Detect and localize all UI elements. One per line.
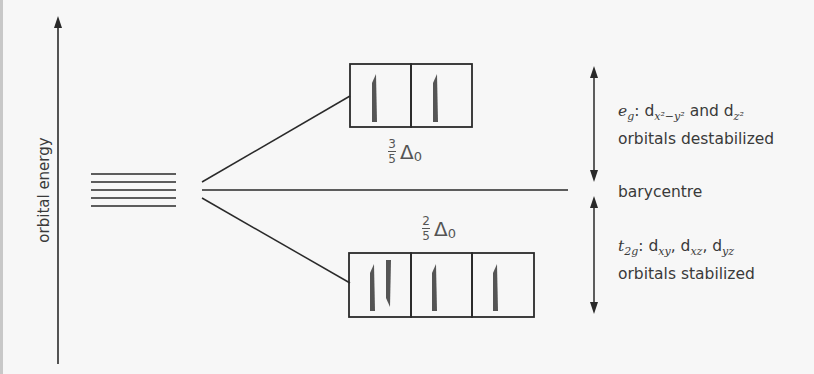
spin-up-arrow-icon — [493, 264, 498, 311]
orbital-d: d — [724, 102, 734, 120]
t2g-symbol-sub: 2g — [624, 245, 638, 258]
t2g-label: t2g: dxy, dxz, dyz orbitals stabilized — [618, 235, 755, 285]
t2g-description: orbitals stabilized — [618, 263, 755, 285]
eg-label: eg: dx²−y² and dz² orbitals destabilized — [618, 100, 774, 150]
spin-up-arrow-icon — [370, 264, 375, 311]
eg-description: orbitals destabilized — [618, 128, 774, 150]
t2g-orbital-boxes — [349, 253, 534, 317]
delta-subscript: 0 — [448, 226, 456, 241]
t2g-energy-arrow — [590, 196, 598, 314]
spin-up-arrow-icon — [372, 74, 377, 122]
arrow-down-icon — [590, 170, 598, 182]
orbital-subscript: z² — [734, 110, 744, 123]
eg-electrons — [372, 74, 438, 122]
t2g-electrons — [370, 260, 498, 311]
eg-split-line — [202, 96, 350, 182]
eg-energy-label: 3 5 Δ 0 — [388, 138, 422, 165]
spin-up-arrow-icon — [432, 264, 437, 311]
arrow-up-icon — [590, 66, 598, 78]
orbital-subscript: yz — [722, 245, 734, 258]
degenerate-levels — [91, 174, 176, 206]
arrow-down-icon — [590, 302, 598, 314]
orbital-subscript: xz — [690, 245, 702, 258]
arrow-up-icon — [590, 196, 598, 208]
spin-up-arrow-icon — [433, 74, 438, 122]
t2g-energy-label: 2 5 Δ 0 — [422, 215, 456, 242]
delta-symbol: Δ — [434, 217, 448, 241]
eg-title-line: eg: dx²−y² and dz² — [618, 100, 774, 128]
orbital-d: d — [681, 237, 691, 255]
eg-orbital-boxes — [350, 64, 472, 127]
energy-axis — [54, 16, 62, 364]
splitting-lines — [202, 96, 568, 283]
fraction: 2 5 — [422, 215, 430, 242]
orbital-subscript: xy — [658, 245, 670, 258]
fraction-denominator: 5 — [422, 230, 430, 242]
t2g-title-line: t2g: dxy, dxz, dyz — [618, 235, 755, 263]
fraction-numerator: 3 — [388, 138, 396, 150]
orbital-d: d — [712, 237, 722, 255]
spin-down-arrow-icon — [386, 260, 391, 307]
eg-energy-arrow — [590, 66, 598, 182]
fraction-numerator: 2 — [422, 215, 430, 227]
connector-text: and — [690, 102, 719, 120]
fraction: 3 5 — [388, 138, 396, 165]
orbital-subscript: x²−y² — [654, 110, 684, 123]
barycentre-label: barycentre — [618, 181, 702, 203]
axis-arrow-icon — [54, 16, 62, 28]
eg-symbol: e — [618, 102, 627, 120]
delta-symbol: Δ — [400, 140, 414, 164]
axis-label: orbital energy — [35, 137, 53, 242]
eg-symbol-sub: g — [627, 110, 634, 123]
t2g-split-line — [202, 198, 350, 283]
delta-subscript: 0 — [414, 149, 422, 164]
fraction-denominator: 5 — [388, 153, 396, 165]
orbital-d: d — [648, 237, 658, 255]
orbital-d: d — [644, 102, 654, 120]
